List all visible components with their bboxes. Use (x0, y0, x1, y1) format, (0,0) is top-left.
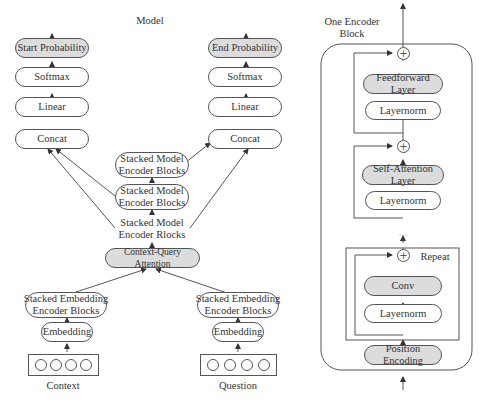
model-encoder-node-2: Stacked Model Encoder Blocks (115, 184, 189, 210)
self-attention-layer-node: Self-Attention Layer (362, 165, 444, 185)
start-probability-node: Start Probability (15, 38, 89, 58)
token-circle-icon (35, 359, 47, 371)
end-linear-node: Linear (208, 97, 282, 117)
residual-add-icon-3: + (397, 249, 410, 262)
repeat-label: Repeat (415, 251, 455, 263)
conv-node: Conv (364, 276, 442, 296)
token-circle-icon (224, 359, 236, 371)
start-softmax-node: Softmax (15, 67, 89, 87)
end-concat-node: Concat (208, 129, 282, 149)
start-linear-node: Linear (15, 97, 89, 117)
context-input-tokens (28, 354, 99, 376)
feedforward-layer-node: Feedforward Layer (363, 74, 443, 94)
encoder-block-title: One Encoder Block (322, 16, 382, 40)
residual-add-icon-2: + (397, 140, 410, 153)
question-label: Question (208, 380, 268, 392)
question-input-tokens (200, 354, 277, 376)
ellipsis-dots (399, 234, 406, 235)
context-embedding-encoder-node: Stacked Embedding Encoder Blocks (25, 292, 107, 318)
model-encoder-node-3: Stacked Model Encoder Rlocks (115, 216, 189, 242)
layernorm-node-1: Layernorm (365, 101, 441, 120)
context-embedding-node: Embedding (41, 322, 93, 342)
token-circle-icon (258, 359, 270, 371)
start-concat-node: Concat (15, 129, 89, 149)
token-circle-icon (80, 359, 92, 371)
layernorm-node-3: Layernorm (364, 304, 442, 323)
model-title: Model (120, 15, 180, 27)
residual-add-icon-1: + (397, 47, 410, 60)
end-softmax-node: Softmax (208, 67, 282, 87)
question-embedding-encoder-node: Stacked Embedding Encoder Blocks (197, 292, 279, 318)
context-query-attention-node: Context-Query Attention (105, 248, 200, 268)
layernorm-node-2: Layernorm (365, 191, 441, 210)
token-circle-icon (50, 359, 62, 371)
token-circle-icon (207, 359, 219, 371)
end-probability-node: End Probability (208, 38, 282, 58)
token-circle-icon (241, 359, 253, 371)
position-encoding-node: Position Encoding (364, 345, 442, 365)
token-circle-icon (65, 359, 77, 371)
model-encoder-node-1: Stacked Model Encoder Blocks (115, 152, 189, 178)
question-embedding-node: Embedding (212, 322, 264, 342)
context-label: Context (33, 380, 93, 392)
